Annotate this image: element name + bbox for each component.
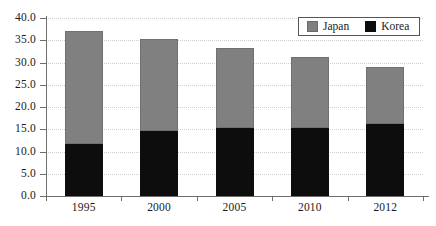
x-axis-tick-label: 2000 (121, 201, 196, 215)
y-axis-tick-label: 5.0 (0, 168, 36, 180)
bar-segment-korea (366, 124, 404, 196)
legend-entry-japan: Japan (299, 21, 353, 33)
bar-group (65, 18, 103, 196)
y-axis-tick-label: 35.0 (0, 34, 36, 46)
bar-group (140, 18, 178, 196)
plot-area (46, 18, 423, 196)
y-axis-tick-label: 10.0 (0, 146, 36, 158)
bar-group (291, 18, 329, 196)
x-axis-tick-label: 1995 (46, 201, 121, 215)
x-axis-line (40, 196, 429, 197)
y-axis-tick-label: 15.0 (0, 123, 36, 135)
legend-swatch-icon (365, 21, 376, 32)
bar-segment-japan (216, 48, 254, 129)
legend-swatch-icon (307, 21, 318, 32)
stacked-bar-chart: 40.035.030.025.020.015.010.05.00.0 19952… (0, 0, 436, 226)
x-axis-tick-label: 2005 (197, 201, 272, 215)
x-axis-tick-label: 2010 (272, 201, 347, 215)
legend-label: Korea (381, 21, 409, 33)
bar-segment-japan (140, 39, 178, 132)
chart-legend: JapanKorea (298, 17, 420, 36)
y-axis-tick-label: 20.0 (0, 101, 36, 113)
bar-segment-korea (291, 128, 329, 196)
bar-segment-japan (291, 57, 329, 128)
bar-group (216, 18, 254, 196)
bar-segment-japan (366, 67, 404, 124)
bar-segment-korea (140, 131, 178, 196)
x-axis-tick (423, 196, 424, 201)
bar-segment-japan (65, 31, 103, 143)
y-axis-tick-label: 40.0 (0, 12, 36, 24)
legend-label: Japan (323, 21, 349, 33)
bar-group (366, 18, 404, 196)
x-axis-tick-label: 2012 (348, 201, 423, 215)
y-axis-tick-label: 0.0 (0, 190, 36, 202)
y-axis-tick-label: 30.0 (0, 57, 36, 69)
legend-entry-korea: Korea (353, 21, 413, 33)
bar-segment-korea (65, 144, 103, 197)
bar-segment-korea (216, 128, 254, 196)
y-axis-tick-label: 25.0 (0, 79, 36, 91)
